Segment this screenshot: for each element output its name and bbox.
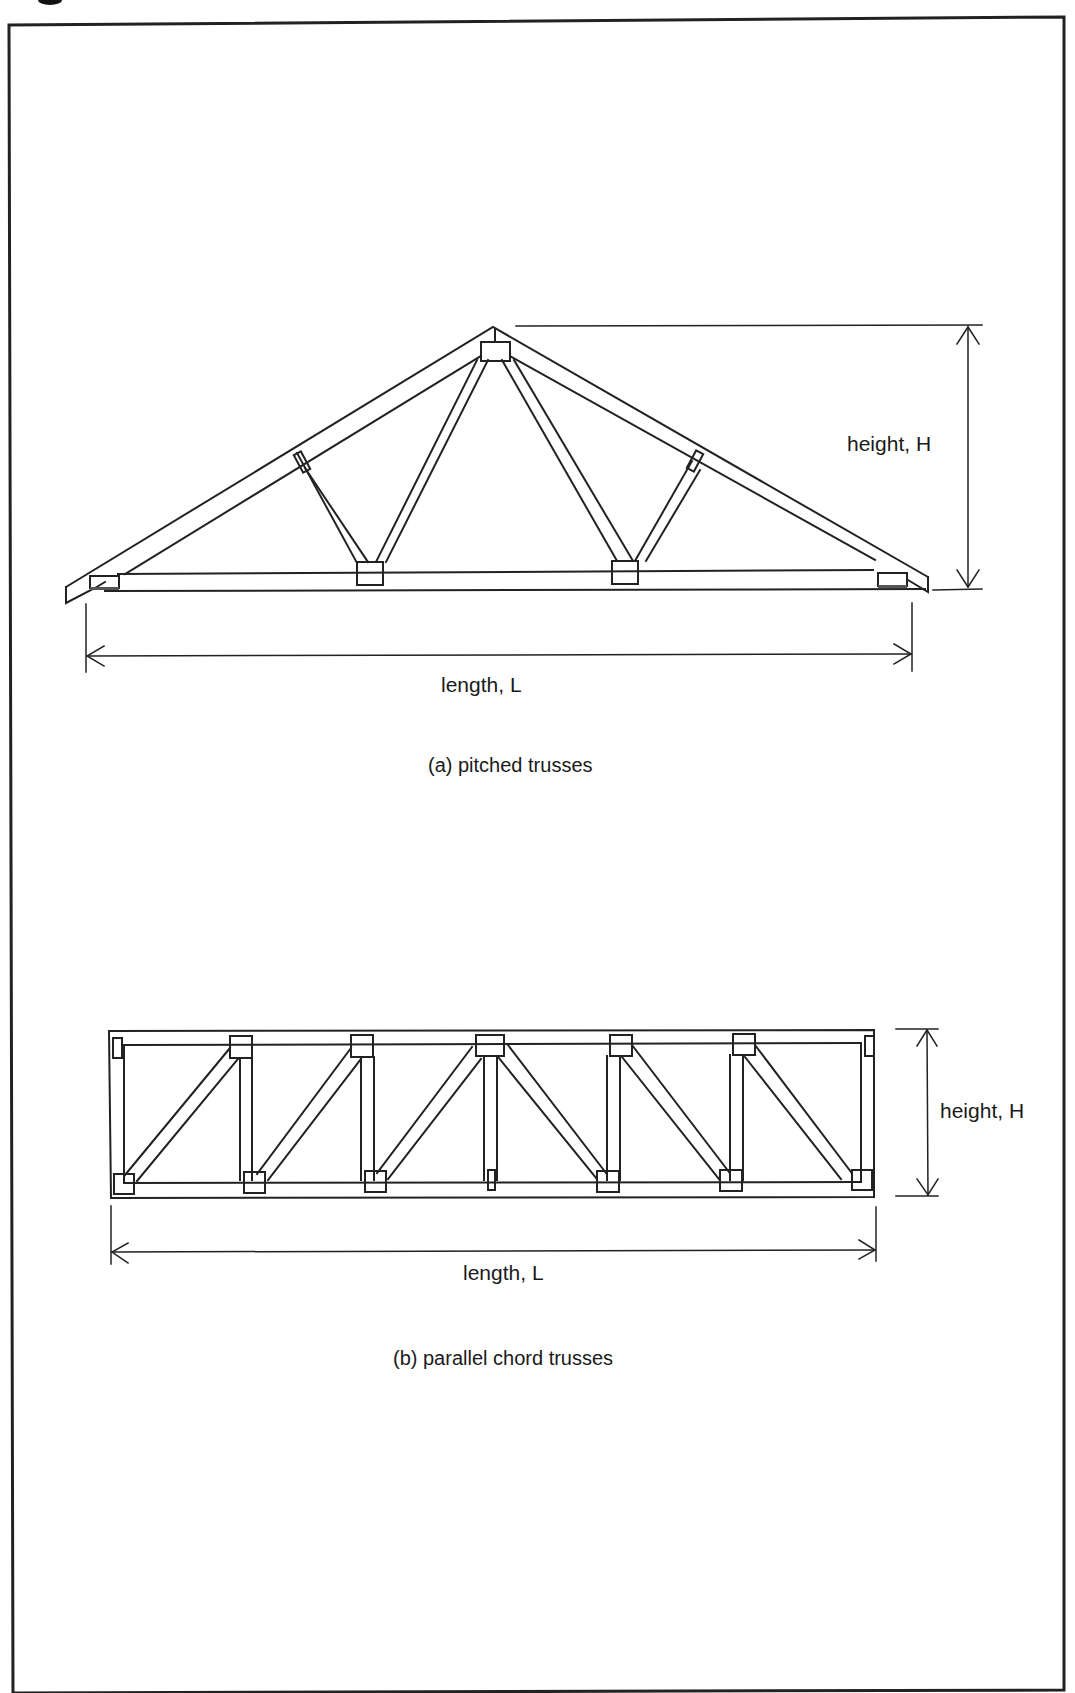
parallel-caption: (b) parallel chord trusses bbox=[393, 1348, 613, 1368]
diagonal-web-4 bbox=[498, 1045, 606, 1179]
top-gusset-2 bbox=[351, 1035, 373, 1057]
left-heel-bearing bbox=[90, 587, 119, 590]
bottom-chord-inner bbox=[124, 1182, 861, 1183]
right-bottom-gusset bbox=[612, 561, 638, 584]
bottom-chord-bottom bbox=[105, 589, 925, 591]
truss-figure: height, H length, L (a) pitched trusses … bbox=[0, 0, 1075, 1693]
diagonal-web-1 bbox=[125, 1048, 238, 1181]
height-dimension-line-b bbox=[927, 1030, 928, 1195]
top-gusset-5 bbox=[733, 1034, 755, 1055]
top-chord-outer bbox=[66, 327, 928, 587]
parallel-chord-truss-drawing bbox=[109, 1030, 874, 1198]
height-extension-bottom bbox=[933, 589, 982, 590]
bottom-gusset-3 bbox=[365, 1171, 386, 1192]
bottom-chord-top bbox=[118, 570, 873, 574]
top-chord-inner bbox=[124, 1043, 861, 1045]
right-short-web-b bbox=[646, 470, 700, 561]
parallel-length-label: length, L bbox=[463, 1262, 544, 1283]
diagonal-web-2 bbox=[257, 1048, 361, 1180]
apex-gusset-plate bbox=[481, 342, 510, 361]
figure-canvas bbox=[0, 0, 1075, 1693]
left-long-web-b bbox=[386, 360, 488, 562]
parallel-dimensions bbox=[111, 1029, 938, 1264]
diagonal-web-6 bbox=[745, 1045, 851, 1179]
length-dimension-line bbox=[87, 654, 911, 656]
right-end-plate bbox=[865, 1036, 874, 1056]
right-long-web-a bbox=[502, 360, 617, 561]
parallel-height-label: height, H bbox=[940, 1100, 1024, 1121]
left-short-web-b bbox=[305, 468, 368, 562]
top-gusset-1 bbox=[230, 1036, 252, 1058]
length-dimension-line-b bbox=[112, 1250, 875, 1252]
right-long-web-b bbox=[514, 360, 633, 561]
length-arrow-left-icon bbox=[112, 1243, 128, 1263]
left-end-plate bbox=[113, 1038, 122, 1058]
pitched-dimensions bbox=[86, 325, 982, 672]
top-gusset-3 bbox=[476, 1035, 504, 1056]
pitched-truss-drawing bbox=[66, 327, 928, 603]
bottom-gusset-4 bbox=[488, 1170, 495, 1190]
cropped-marker-icon bbox=[38, 0, 62, 5]
vertical-web-2 bbox=[361, 1057, 374, 1180]
vertical-web-3 bbox=[484, 1057, 497, 1180]
vertical-web-4 bbox=[607, 1056, 620, 1180]
right-short-web-a bbox=[635, 461, 692, 561]
diagonal-web-3 bbox=[377, 1047, 481, 1179]
right-web-plate bbox=[687, 450, 703, 471]
pitched-length-label: length, L bbox=[441, 674, 522, 695]
diagonal-web-5 bbox=[622, 1045, 729, 1179]
height-extension-top bbox=[516, 325, 982, 326]
top-gusset-4 bbox=[610, 1035, 632, 1056]
pitched-caption: (a) pitched trusses bbox=[428, 755, 593, 775]
vertical-web-1 bbox=[240, 1058, 252, 1180]
right-heel-bearing bbox=[878, 585, 907, 588]
figure-frame bbox=[9, 17, 1064, 1693]
vertical-web-5 bbox=[730, 1055, 743, 1180]
left-overhang bbox=[66, 582, 105, 603]
pitched-height-label: height, H bbox=[847, 433, 931, 454]
right-heel-plate bbox=[878, 573, 907, 586]
